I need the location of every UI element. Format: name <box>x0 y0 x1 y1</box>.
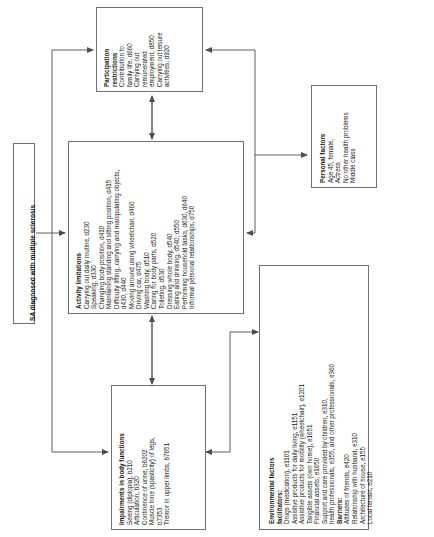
participation-restrictions-text: Participation restrictions Contribution … <box>103 32 171 87</box>
facilitators-label: facilitators: <box>276 364 284 524</box>
activity-item: Dressing whole body, d540 <box>166 170 174 309</box>
participation-restrictions-box: Participation restrictions Contribution … <box>96 7 203 92</box>
activity-item: Changing body position, d410 <box>98 170 106 309</box>
activity-item: Carrying out daily routine, d230 <box>83 170 91 309</box>
environmental-factors-box: Environmental factors facilitators: Drug… <box>259 265 369 530</box>
activity-item: Maintaining standing and sitting positio… <box>105 170 113 309</box>
impairments-box: Impairments in body functions Seeing (di… <box>111 385 206 530</box>
activity-item: Moving around using wheelchair, d460 <box>128 170 136 309</box>
activity-item: Toileting, d530 <box>158 170 166 309</box>
impairments-title: Impairments in body functions <box>118 433 126 525</box>
personal-factors-text: Personal factors Age 45, female, Actress… <box>319 112 357 183</box>
facilitator-item: Support and care provided by children, e… <box>321 364 329 524</box>
activity-item: Performing household tasks, d630, d640 <box>181 170 189 309</box>
icf-diagram-canvas: SA diagnosed with multiple sclerosis Par… <box>0 0 434 537</box>
participation-item: Carrying out <box>133 32 141 87</box>
edge-right-spine-to-participation <box>206 50 255 155</box>
participation-title-line2: restrictions <box>111 32 119 87</box>
activity-title: Activity limitations <box>75 170 83 309</box>
impairments-text: Impairments in body functions Seeing (di… <box>118 433 171 525</box>
barrier-item: Relationship with husband, e310 <box>351 364 359 524</box>
impairments-item: Muscle tone (spasticity) of legs, <box>148 433 156 525</box>
participation-item: employment, d850 <box>148 32 156 87</box>
impairments-item: Seeing (diplopia), b210 <box>126 433 134 525</box>
barriers-label: Barriers: <box>336 364 344 524</box>
environmental-factors-text: Environmental factors facilitators: Drug… <box>268 364 374 524</box>
personal-title: Personal factors <box>319 112 327 183</box>
barrier-item: Attitudes of friends, e420 <box>343 364 351 524</box>
facilitator-item: Assistive products for daily living, e11… <box>291 364 299 524</box>
activity-item: Driving car, d475 <box>135 170 143 309</box>
environmental-title: Environmental factors <box>268 364 276 524</box>
personal-item: Actress <box>334 112 342 183</box>
activity-limitations-box: Activity limitations Carrying out daily … <box>68 141 244 314</box>
facilitator-item: Assistive products for mobility (wheelch… <box>298 364 306 524</box>
impairments-item: b7353 <box>156 433 164 525</box>
edge-right-spine-to-activity <box>247 155 255 233</box>
personal-factors-box: Personal factors Age 45, female, Actress… <box>311 85 377 188</box>
activity-item: Difficulty lifting, carrying and manipul… <box>113 170 121 309</box>
activity-item: Eating and drinking, d540, d550 <box>173 170 181 309</box>
facilitator-item: Drugs (medication), e1101 <box>283 364 291 524</box>
impairments-item: Articulation, b320 <box>133 433 141 525</box>
activity-item: Speaking, d330 <box>90 170 98 309</box>
participation-title-line1: Participation <box>103 32 111 87</box>
impairments-item: Tremor in upper limbs, b7651 <box>163 433 171 525</box>
participation-item: family life, d660 <box>126 32 134 87</box>
health-condition-box: SA diagnosed with multiple sclerosis <box>13 143 35 324</box>
barrier-item: Architecture of house, e155 <box>359 364 367 524</box>
impairments-item: Continence of urine, b6202 <box>141 433 149 525</box>
activity-item: d430, d440 <box>120 170 128 309</box>
barrier-item: Local terrain, e210 <box>366 364 374 524</box>
facilitator-item: Financial assets, e1650 <box>313 364 321 524</box>
participation-item: activities, d920 <box>163 32 171 87</box>
activity-item: Informal personal relationships, d750 <box>188 170 196 309</box>
facilitator-item: Tangible assets (own home), e1651 <box>306 364 314 524</box>
participation-item: Contribution to <box>118 32 126 87</box>
edge-env-spine-to-environmental <box>230 332 258 452</box>
personal-item: No other health problems <box>342 112 350 183</box>
facilitator-item: health professionals, e355, and other pr… <box>328 364 336 524</box>
activity-item: Caring for body parts, d520 <box>150 170 158 309</box>
participation-item: remunerated <box>141 32 149 87</box>
personal-item: Age 45, female, <box>327 112 335 183</box>
participation-item: Carrying out leisure <box>156 32 164 87</box>
health-condition-label: SA diagnosed with multiple sclerosis <box>29 205 36 321</box>
activity-item: Washing body, d510 <box>143 170 151 309</box>
activity-limitations-text: Activity limitations Carrying out daily … <box>75 170 196 309</box>
personal-item: Middle class <box>349 112 357 183</box>
